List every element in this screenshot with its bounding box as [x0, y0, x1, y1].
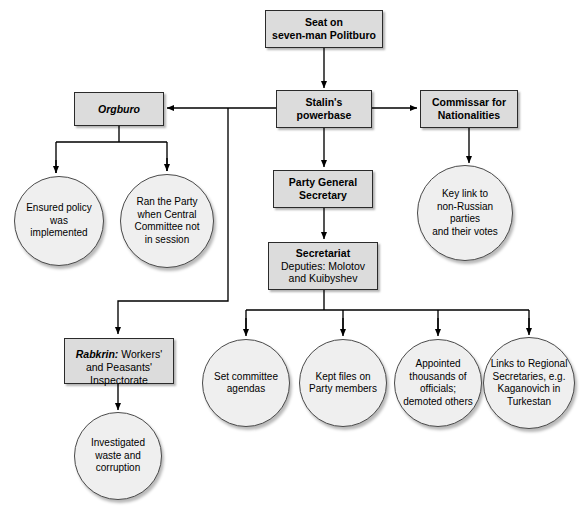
node-label: Key link to non-Russian parties and thei… — [424, 188, 506, 238]
node-label: Links to Regional Secretaries, e.g. Kaga… — [491, 358, 568, 408]
node-rabkrin[interactable]: Rabkrin: Workers' and Peasants' Inspecto… — [64, 338, 174, 384]
node-label: Stalin's powerbase — [297, 96, 352, 122]
diagram-canvas: Seat on seven-man Politburo Stalin's pow… — [0, 0, 585, 509]
node-links-regional-secretaries[interactable]: Links to Regional Secretaries, e.g. Kaga… — [483, 337, 575, 429]
node-label: Investigated waste and corruption — [91, 437, 145, 475]
node-seat-on-politburo[interactable]: Seat on seven-man Politburo — [265, 10, 383, 48]
node-label: Appointed thousands of officials; demote… — [403, 358, 473, 408]
node-stalins-powerbase[interactable]: Stalin's powerbase — [276, 90, 372, 128]
node-label: Seat on seven-man Politburo — [272, 16, 376, 42]
node-label-bold: Rabkrin: — [76, 348, 119, 360]
node-label: Set committee agendas — [214, 371, 278, 396]
node-commissar-for-nationalities[interactable]: Commissar for Nationalities — [420, 90, 518, 128]
node-label: Ensured policy was implemented — [21, 202, 97, 240]
node-kept-files-party-members[interactable]: Kept files on Party members — [299, 339, 387, 427]
node-investigated-waste-corruption[interactable]: Investigated waste and corruption — [74, 412, 162, 500]
node-label-bold: Secretariat — [296, 247, 350, 259]
node-label: Ran the Party when Central Committee not… — [134, 196, 199, 246]
node-label: Orgburo — [98, 103, 140, 116]
node-key-link-non-russian-parties[interactable]: Key link to non-Russian parties and thei… — [417, 165, 513, 261]
node-label: Kept files on Party members — [309, 371, 377, 396]
node-label-sub: Deputies: Molotov and Kuibyshev — [281, 260, 365, 286]
node-secretariat[interactable]: Secretariat Deputies: Molotov and Kuibys… — [268, 242, 378, 290]
node-set-committee-agendas[interactable]: Set committee agendas — [202, 339, 290, 427]
node-ran-the-party[interactable]: Ran the Party when Central Committee not… — [120, 174, 214, 268]
node-ensured-policy-implemented[interactable]: Ensured policy was implemented — [14, 176, 104, 266]
node-orgburo[interactable]: Orgburo — [74, 92, 164, 126]
node-party-general-secretary[interactable]: Party General Secretary — [273, 170, 373, 208]
node-label: Commissar for Nationalities — [432, 96, 506, 122]
node-appointed-officials[interactable]: Appointed thousands of officials; demote… — [394, 339, 482, 427]
node-label: Party General Secretary — [289, 176, 357, 202]
